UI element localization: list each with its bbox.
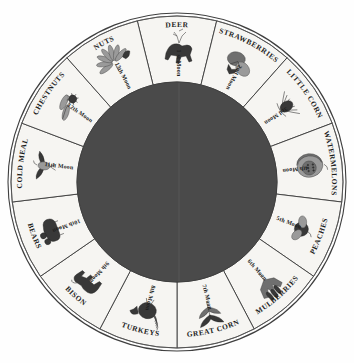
moon-number-text: 1 st Moon	[176, 50, 182, 77]
moon-number-label: 1 st Moon	[176, 50, 182, 77]
moon-calendar-wheel: DEER1 st MoonSTRAWBERRIES2nd MoonLITTLE …	[0, 0, 354, 363]
center-hub	[77, 82, 277, 282]
wheel-diagram: DEER1 st MoonSTRAWBERRIES2nd MoonLITTLE …	[0, 0, 354, 363]
